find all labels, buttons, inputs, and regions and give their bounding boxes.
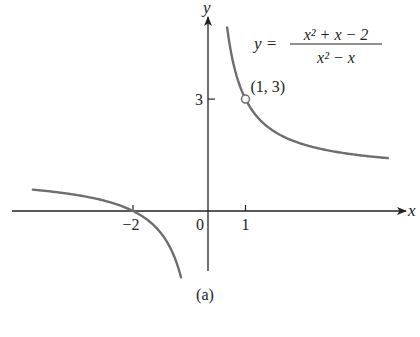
x-ticks: −201 — [122, 205, 249, 233]
point-label: (1, 3) — [251, 78, 286, 96]
equation-label: y = x² + x − 2 x² − x — [252, 26, 382, 66]
equation-numerator: x² + x − 2 — [303, 26, 369, 43]
x-axis-label: x — [407, 201, 416, 220]
y-tick-label: 3 — [195, 91, 203, 108]
y-axis-label: y — [201, 0, 211, 17]
open-circle-marker — [242, 95, 250, 103]
chart-canvas: −201 3 x y (1, 3) y = x² + x − 2 x² − x … — [0, 0, 420, 337]
equation-denominator: x² − x — [316, 49, 355, 66]
x-tick-label: 0 — [196, 216, 204, 233]
y-ticks: 3 — [195, 91, 215, 108]
x-tick-label: −2 — [122, 216, 139, 233]
x-tick-label: 1 — [242, 216, 250, 233]
curve-left-branch — [33, 190, 181, 278]
equation-lhs: y = — [252, 34, 277, 53]
figure-caption: (a) — [196, 286, 214, 304]
